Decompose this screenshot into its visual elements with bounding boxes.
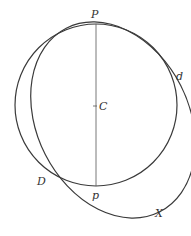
label-X: X <box>154 207 164 220</box>
label-d: d <box>176 70 183 83</box>
label-D: D <box>36 175 46 188</box>
label-p: p <box>92 189 99 202</box>
orbit-diagram: P C d D p X <box>0 0 191 236</box>
label-C: C <box>99 100 108 113</box>
label-P: P <box>90 8 99 21</box>
